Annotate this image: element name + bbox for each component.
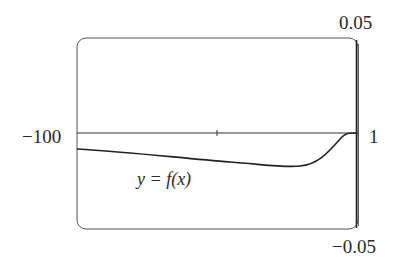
x-min-label: −100 bbox=[22, 127, 61, 146]
curve-f bbox=[77, 133, 356, 167]
curve-label: y = f(x) bbox=[137, 170, 191, 188]
x-max-label: 1 bbox=[369, 127, 379, 146]
y-max-label: 0.05 bbox=[339, 13, 372, 32]
y-min-label: −0.05 bbox=[332, 237, 376, 256]
